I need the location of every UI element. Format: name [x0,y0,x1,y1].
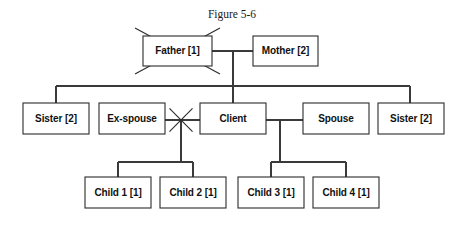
person-label-spouse: Spouse [318,113,354,124]
person-node-child3[interactable]: Child 3 [1] [238,177,304,208]
person-label-father: Father [1] [155,45,200,56]
genogram-figure: Figure 5-6 Father [1]Mother [2]Sister [2… [0,0,464,227]
person-node-spouse[interactable]: Spouse [303,103,369,134]
person-node-mother[interactable]: Mother [2] [253,36,318,66]
person-label-child4: Child 4 [1] [322,187,369,198]
person-node-child1[interactable]: Child 1 [1] [85,177,151,208]
person-label-ex-spouse: Ex-spouse [107,113,157,124]
person-label-child2: Child 2 [1] [169,187,216,198]
person-node-ex-spouse[interactable]: Ex-spouse [99,103,165,134]
person-label-child3: Child 3 [1] [247,187,294,198]
person-label-sister-l: Sister [2] [35,113,77,124]
person-node-father[interactable]: Father [1] [143,36,212,66]
person-node-sister-r[interactable]: Sister [2] [378,103,444,134]
person-node-child2[interactable]: Child 2 [1] [160,177,226,208]
person-node-sister-l[interactable]: Sister [2] [23,103,89,134]
person-label-sister-r: Sister [2] [390,113,432,124]
figure-title: Figure 5-6 [208,8,256,21]
person-label-mother: Mother [2] [262,45,309,56]
person-label-client: Client [219,113,247,124]
person-label-child1: Child 1 [1] [94,187,141,198]
person-node-child4[interactable]: Child 4 [1] [313,177,379,208]
genogram-canvas: Figure 5-6 Father [1]Mother [2]Sister [2… [0,0,464,227]
person-node-client[interactable]: Client [200,103,266,134]
